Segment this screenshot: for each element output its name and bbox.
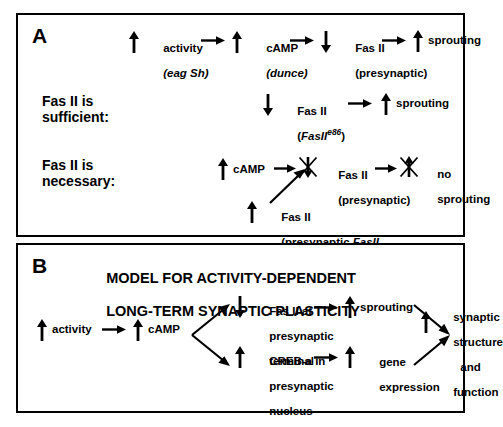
node-camp-necessary-label: cAMP [233, 163, 265, 175]
right-arrow-icon [314, 303, 338, 312]
node-sprouting-sufficient-label: sprouting [396, 97, 449, 109]
down-arrow-icon [320, 31, 332, 53]
right-arrow-icon [314, 353, 338, 362]
row-label-necessary: Fas II is necessary: [42, 157, 115, 189]
panel-b: B MODEL FOR ACTIVITY-DEPENDENT LONG-TERM… [16, 243, 465, 413]
right-arrow-icon [382, 36, 406, 45]
down-arrow-icon [262, 94, 274, 116]
up-arrow-crossed-out-icon [399, 155, 419, 179]
node-sprouting-b-label: sprouting [360, 301, 413, 313]
up-arrow-icon [344, 296, 356, 318]
up-arrow-icon [217, 158, 229, 180]
panel-a-letter: A [32, 25, 47, 46]
up-arrow-icon [380, 93, 392, 115]
right-arrow-icon [348, 99, 372, 108]
node-sprouting-label: sprouting [428, 34, 481, 46]
up-arrow-icon [344, 346, 356, 368]
up-arrow-icon [128, 31, 140, 53]
node-no-sprouting-label: no sprouting [418, 156, 490, 218]
up-arrow-icon [246, 201, 258, 223]
up-arrow-icon [36, 319, 48, 341]
node-activity-b-label: activity [52, 323, 92, 335]
node-activity-label: activity (eag Sh) [144, 30, 209, 92]
panel-b-letter: B [32, 255, 47, 276]
up-arrow-icon [412, 30, 424, 52]
right-arrow-icon [201, 36, 225, 45]
up-arrow-icon [234, 346, 246, 368]
right-arrow-icon [102, 325, 126, 334]
branch-split-arrows-icon [190, 297, 232, 373]
row-label-sufficient: Fas II is sufficient: [42, 93, 109, 125]
up-arrow-icon [420, 311, 432, 333]
right-arrow-icon [290, 36, 314, 45]
up-arrow-icon [132, 319, 144, 341]
node-camp-b-label: cAMP [148, 323, 180, 335]
node-fasii-e86-label: Fas II (FasIIe86) [278, 93, 345, 155]
panel-a: A activity (eag Sh) cAMP (dunce) [16, 13, 465, 237]
node-synaptic-result-label: synaptic structure and function [434, 299, 488, 411]
down-arrow-icon [234, 296, 246, 318]
right-arrow-icon [375, 164, 397, 173]
up-arrow-icon [231, 31, 243, 53]
